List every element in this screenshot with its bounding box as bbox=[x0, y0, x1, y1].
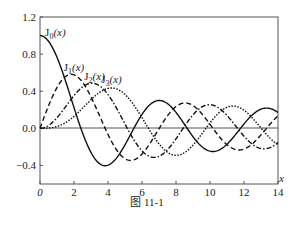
curve-label: J0(x) bbox=[45, 26, 66, 41]
curve-label: J3(x) bbox=[101, 73, 122, 88]
bessel-chart: 02468101214−0.40.00.40.81.2 J0(x)J1(x)J2… bbox=[0, 0, 295, 226]
x-tick-label: 8 bbox=[173, 186, 179, 198]
y-tick-label: 0.0 bbox=[22, 122, 36, 134]
curve-j2x bbox=[40, 83, 278, 157]
curve-j1x bbox=[40, 74, 278, 160]
x-tick-label: 0 bbox=[37, 186, 43, 198]
y-tick-label: 0.8 bbox=[22, 48, 36, 60]
x-tick-label: 12 bbox=[239, 186, 250, 198]
x-tick-label: 10 bbox=[205, 186, 217, 198]
x-axis-label: x bbox=[278, 172, 284, 184]
x-tick-label: 4 bbox=[105, 186, 111, 198]
x-tick-label: 14 bbox=[273, 186, 285, 198]
y-tick-label: −0.4 bbox=[16, 159, 36, 171]
curve-label: J1(x) bbox=[64, 61, 85, 76]
curve-j0x bbox=[40, 36, 278, 166]
x-tick-label: 2 bbox=[71, 186, 77, 198]
curves bbox=[40, 36, 278, 166]
y-tick-label: 0.4 bbox=[22, 85, 36, 97]
curve-j3x bbox=[40, 88, 278, 155]
y-tick-label: 1.2 bbox=[22, 11, 36, 23]
figure-caption: 图 11-1 bbox=[130, 196, 164, 208]
